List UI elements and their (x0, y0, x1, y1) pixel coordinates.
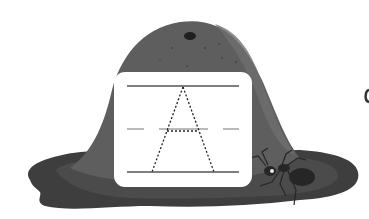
anthill-hole-icon (184, 32, 196, 40)
letter-tracing-guide (114, 72, 252, 187)
tracing-card (114, 72, 252, 187)
partial-next-item (362, 88, 369, 104)
